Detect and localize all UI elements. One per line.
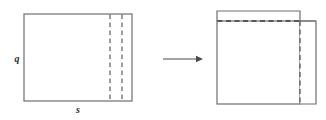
offset-flap-outline: [300, 21, 316, 104]
source-rectangle: [24, 14, 132, 101]
transform-arrow-group: [163, 56, 203, 62]
fold-transformation-diagram: q s: [0, 0, 326, 120]
transform-arrow-head: [196, 56, 203, 62]
left-figure-group: q s: [15, 14, 133, 115]
width-label-s: s: [75, 104, 80, 115]
raised-panel-outline: [217, 11, 300, 21]
height-label-q: q: [15, 53, 20, 64]
diagram-canvas: q s: [0, 0, 326, 120]
folded-main-body: [217, 21, 300, 104]
right-figure-group: [217, 11, 316, 104]
